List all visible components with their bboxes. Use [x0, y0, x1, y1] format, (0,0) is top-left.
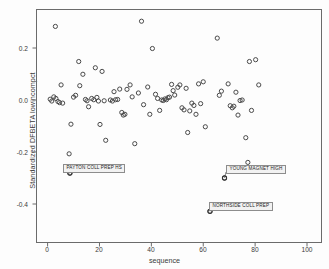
data-point: [118, 87, 122, 91]
data-point: [130, 95, 134, 99]
data-point: [53, 24, 57, 28]
data-point: [186, 130, 190, 134]
data-point: [199, 102, 203, 106]
data-point: [112, 90, 116, 94]
data-point: [247, 59, 251, 63]
annotation-young[interactable]: YOUNG MAGNET HIGH: [226, 165, 286, 174]
data-point: [128, 83, 132, 87]
data-point: [141, 103, 145, 107]
data-point: [78, 84, 82, 88]
data-point: [184, 86, 188, 90]
data-point: [257, 83, 261, 87]
data-point: [67, 152, 71, 156]
data-point: [77, 59, 81, 63]
data-point: [69, 122, 73, 126]
data-point: [81, 72, 85, 76]
data-point: [246, 160, 250, 164]
scatter-plot-figure: Standardized DFBETA lowincompct sequence…: [0, 0, 329, 269]
data-point: [148, 112, 152, 116]
data-point: [155, 96, 159, 100]
data-point: [98, 122, 102, 126]
data-point: [153, 92, 157, 96]
plot-canvas: [0, 0, 329, 269]
data-point: [102, 99, 106, 103]
data-point: [194, 112, 198, 116]
data-point: [125, 87, 129, 91]
data-point: [244, 136, 248, 140]
data-point: [169, 82, 173, 86]
data-point: [188, 109, 192, 113]
data-point: [150, 46, 154, 50]
tick-marks: [33, 48, 308, 247]
data-point-group: [48, 19, 261, 213]
data-point: [59, 83, 63, 87]
data-point: [133, 142, 137, 146]
data-point: [254, 58, 258, 62]
annotation-payton[interactable]: PAYTON COLL PREP HS: [63, 164, 125, 173]
data-point: [171, 89, 175, 93]
data-point: [96, 99, 100, 103]
data-point: [158, 108, 162, 112]
data-point: [93, 66, 97, 70]
data-point: [104, 138, 108, 142]
data-point: [219, 89, 223, 93]
data-point: [173, 93, 177, 97]
data-point: [234, 90, 238, 94]
data-point: [100, 69, 104, 73]
data-point: [217, 93, 221, 97]
data-point: [196, 82, 200, 86]
data-point: [139, 19, 143, 23]
annotation-northside[interactable]: NORTHSIDE COLL PREP: [209, 202, 273, 211]
annotation-leader-lines: [63, 171, 227, 213]
data-point: [249, 108, 253, 112]
data-point: [203, 125, 207, 129]
data-point: [146, 85, 150, 89]
data-point: [86, 105, 90, 109]
plot-frame: [37, 10, 322, 243]
data-point: [236, 113, 240, 117]
data-point: [226, 82, 230, 86]
data-point: [201, 80, 205, 84]
data-point: [215, 36, 219, 40]
data-point: [136, 91, 140, 95]
